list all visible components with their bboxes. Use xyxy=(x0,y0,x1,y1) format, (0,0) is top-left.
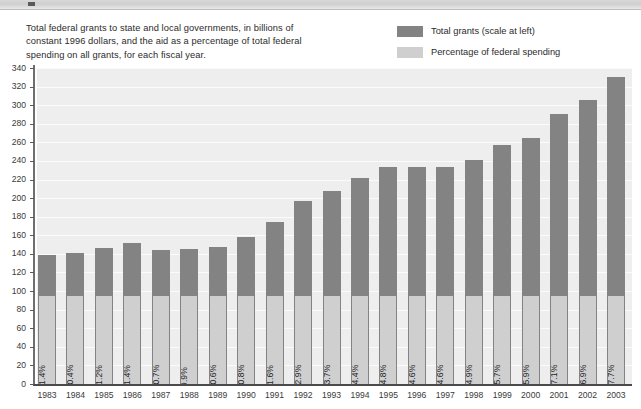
x-tick-label: 1998 xyxy=(460,390,488,400)
y-tick-mark xyxy=(30,161,34,162)
x-tick-label: 1991 xyxy=(261,390,289,400)
x-tick-label: 2002 xyxy=(574,390,602,400)
y-tick-mark xyxy=(30,310,34,311)
y-tick-mark xyxy=(30,272,34,273)
x-tick-label: 1996 xyxy=(403,390,431,400)
y-tick-mark xyxy=(30,365,34,366)
x-tick-label: 1985 xyxy=(90,390,118,400)
y-tick-mark xyxy=(30,254,34,255)
x-tick-label: 1992 xyxy=(289,390,317,400)
y-axis-tick-marks xyxy=(0,0,641,409)
x-tick-label: 1997 xyxy=(431,390,459,400)
y-tick-mark xyxy=(30,328,34,329)
y-tick-mark xyxy=(30,124,34,125)
x-tick-label: 2003 xyxy=(602,390,630,400)
x-tick-label: 1984 xyxy=(61,390,89,400)
y-tick-mark xyxy=(30,180,34,181)
y-tick-mark xyxy=(30,68,34,69)
x-tick-label: 1986 xyxy=(118,390,146,400)
x-tick-label: 1990 xyxy=(232,390,260,400)
x-tick-label: 1988 xyxy=(175,390,203,400)
x-tick-label: 1995 xyxy=(374,390,402,400)
y-tick-mark xyxy=(30,217,34,218)
y-tick-mark xyxy=(30,87,34,88)
x-tick-label: 2000 xyxy=(517,390,545,400)
x-axis-tick-labels: 1983198419851986198719881989199019911992… xyxy=(37,390,632,406)
y-tick-mark xyxy=(30,291,34,292)
x-tick-label: 1989 xyxy=(204,390,232,400)
y-tick-mark xyxy=(30,384,34,385)
x-tick-label: 1993 xyxy=(318,390,346,400)
x-tick-label: 1987 xyxy=(147,390,175,400)
y-tick-mark xyxy=(30,142,34,143)
x-tick-label: 1994 xyxy=(346,390,374,400)
y-tick-mark xyxy=(30,198,34,199)
y-tick-mark xyxy=(30,105,34,106)
y-tick-mark xyxy=(30,347,34,348)
x-tick-label: 2001 xyxy=(545,390,573,400)
x-tick-label: 1999 xyxy=(488,390,516,400)
x-tick-label: 1983 xyxy=(33,390,61,400)
y-tick-mark xyxy=(30,235,34,236)
